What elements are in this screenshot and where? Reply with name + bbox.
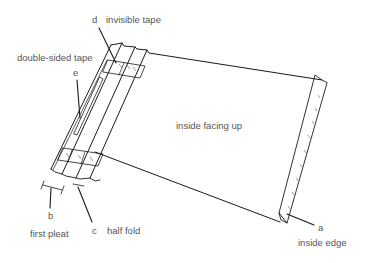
label-a-letter: a [318,223,323,233]
leader-d [99,28,116,63]
label-double-sided-tape: double-sided tape [17,53,93,63]
paper-bottom-edge [95,152,280,222]
label-b-letter: b [48,211,53,221]
paper-top-edge [111,43,322,80]
pleat-line-4 [90,50,147,178]
label-c-letter: c [92,226,97,236]
label-e-letter: e [73,68,78,78]
label-invisible-tape: invisible tape [106,15,161,25]
paper-diagram [0,0,368,263]
leader-a [287,214,314,225]
label-inside-facing-up: inside facing up [176,121,242,131]
label-half-fold: half fold [107,226,140,236]
label-inside-edge: inside edge [298,238,347,248]
leader-b [50,188,51,208]
leader-c [78,187,92,222]
label-d-letter: d [92,15,97,25]
double-sided-tape-slot [74,77,103,135]
label-first-pleat: first pleat [30,229,69,239]
